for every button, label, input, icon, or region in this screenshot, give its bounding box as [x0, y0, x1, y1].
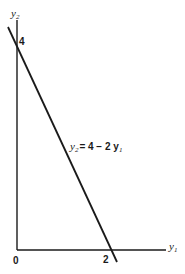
- y-intercept-label: 4: [19, 36, 25, 47]
- y2-axis-label: y2: [10, 7, 20, 21]
- origin-label: 0: [13, 255, 19, 266]
- diagram-canvas: y2 y1 0 4 2 y2= 4 − 2 y1: [0, 0, 185, 274]
- equation-label: y2= 4 − 2 y1: [69, 140, 122, 154]
- y1-axis-label: y1: [168, 240, 177, 254]
- x-intercept-label: 2: [103, 254, 109, 265]
